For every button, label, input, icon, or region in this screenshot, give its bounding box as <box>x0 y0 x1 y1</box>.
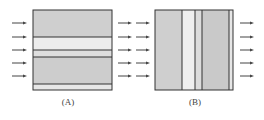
panel-a-inflow-arrow-icon-5-head <box>23 74 27 77</box>
panel-a-outflow-arrow-icon-1-head <box>128 21 132 24</box>
panel-a-outflow-arrow-icon-3-head <box>128 48 132 51</box>
panel-b-outflow-arrow-icon-1-head <box>250 21 254 24</box>
panel-a-inflow-arrow-icon-3-head <box>23 48 27 51</box>
panel-b-outflow-arrow-icon-5-head <box>250 74 254 77</box>
panel-a-outflow-arrow-icon-5-head <box>128 74 132 77</box>
panel-b-layer-2 <box>182 10 195 90</box>
panel-b-inflow-arrow-icon-3-head <box>146 48 150 51</box>
panel-b-layer-4 <box>202 10 229 90</box>
panel-a-layer-4 <box>33 57 112 84</box>
panel-b-inflow-arrow-icon-4-head <box>146 61 150 64</box>
panel-a-inflow-arrow-icon-4-head <box>23 61 27 64</box>
panel-b-outflow-arrow-icon-3-head <box>250 48 254 51</box>
panel-b-outflow-arrow-icon-2-head <box>250 35 254 38</box>
panel-a-inflow-arrow-icon-2-head <box>23 35 27 38</box>
panel-b-layer-1 <box>155 10 182 90</box>
panel-a-outflow-arrow-icon-4-head <box>128 61 132 64</box>
panel-b-inflow-arrow-icon-2-head <box>146 35 150 38</box>
panel-a-layer-5 <box>33 84 112 90</box>
layered-flow-diagram <box>0 0 264 120</box>
panel-a-outflow-arrow-icon-2-head <box>128 35 132 38</box>
panel-a-label: (A) <box>48 97 88 107</box>
panel-b-layer-5 <box>229 10 233 90</box>
panel-a-layer-3 <box>33 50 112 57</box>
panel-b-label: (B) <box>175 97 215 107</box>
panel-b-inflow-arrow-icon-5-head <box>146 74 150 77</box>
panel-a-layer-1 <box>33 10 112 37</box>
panel-b-layer-3 <box>195 10 202 90</box>
panel-b-outflow-arrow-icon-4-head <box>250 61 254 64</box>
panel-a-inflow-arrow-icon-1-head <box>23 21 27 24</box>
panel-b-inflow-arrow-icon-1-head <box>146 21 150 24</box>
panel-a-layer-2 <box>33 37 112 50</box>
